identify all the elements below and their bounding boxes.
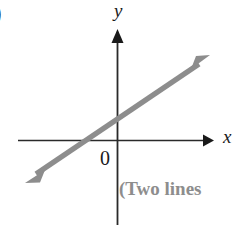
annotation-two-lines-coincide: (Two lines coincide.)	[119, 153, 239, 225]
figure-enumerator-paren: )	[0, 0, 2, 26]
y-axis-arrowhead	[112, 29, 124, 43]
x-axis-label: x	[223, 127, 231, 146]
figure-container: ) y x 0 (Two lines coincide.)	[0, 0, 239, 225]
origin-label: 0	[100, 148, 110, 168]
annotation-line-1: (Two lines	[119, 177, 239, 201]
y-axis-label: y	[114, 1, 122, 20]
x-axis-arrowhead	[203, 135, 214, 147]
